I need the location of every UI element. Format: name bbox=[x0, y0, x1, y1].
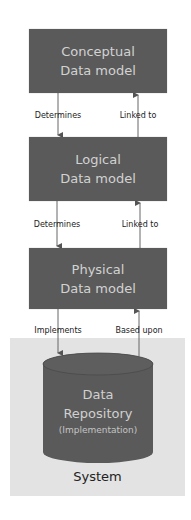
box-title: Logical bbox=[75, 150, 121, 169]
linked-to-label-2: Linked to bbox=[122, 220, 159, 229]
repository-line-1: Data bbox=[43, 385, 153, 404]
box-subtitle: Data model bbox=[60, 279, 136, 298]
based-upon-label: Based upon bbox=[115, 326, 162, 335]
physical-data-model-box: Physical Data model bbox=[29, 248, 167, 309]
repository-line-2: Repository bbox=[43, 404, 153, 423]
box-subtitle: Data model bbox=[60, 169, 136, 188]
determines-label-1: Determines bbox=[35, 111, 81, 120]
box-title: Physical bbox=[72, 260, 125, 279]
determines-label-2: Determines bbox=[34, 220, 80, 229]
implements-label: Implements bbox=[34, 326, 81, 335]
linked-to-label-1: Linked to bbox=[120, 111, 157, 120]
box-subtitle: Data model bbox=[60, 61, 136, 80]
repository-line-3: (Implementation) bbox=[43, 423, 153, 437]
conceptual-data-model-box: Conceptual Data model bbox=[29, 29, 167, 93]
data-repository-label: Data Repository (Implementation) bbox=[43, 385, 153, 437]
logical-data-model-box: Logical Data model bbox=[29, 137, 167, 201]
box-title: Conceptual bbox=[61, 42, 135, 61]
cylinder-top bbox=[43, 353, 153, 375]
